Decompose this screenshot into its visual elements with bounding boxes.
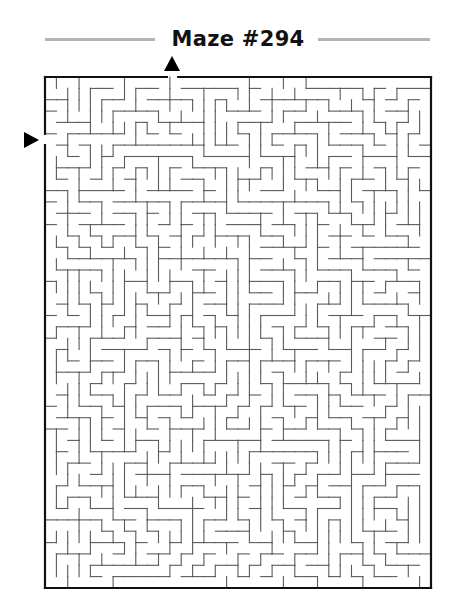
maze-walls xyxy=(45,77,431,588)
maze-grid[interactable] xyxy=(0,0,456,610)
